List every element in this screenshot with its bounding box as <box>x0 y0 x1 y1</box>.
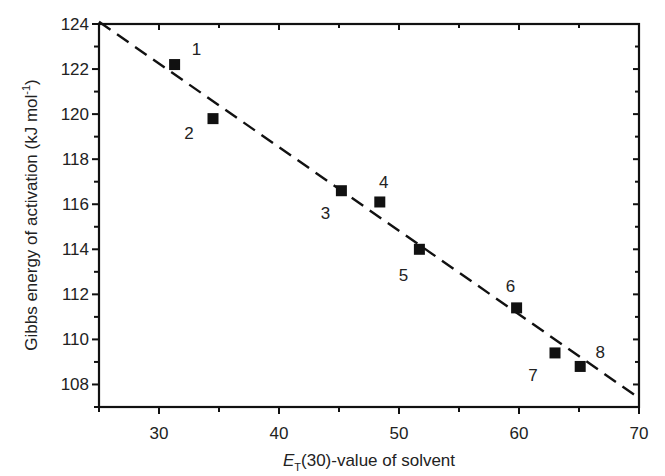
y-tick-label: 120 <box>61 105 89 124</box>
point-label: 6 <box>506 277 515 296</box>
square-marker <box>575 361 586 372</box>
x-tick-label: 50 <box>390 424 409 443</box>
y-tick-label: 112 <box>62 285 89 304</box>
point-label: 8 <box>595 343 604 362</box>
y-tick-label: 122 <box>61 60 89 79</box>
square-marker <box>511 302 522 313</box>
y-tick-label: 114 <box>62 240 89 259</box>
point-label: 4 <box>379 173 388 192</box>
x-axis-label: ET(30)-value of solvent <box>283 451 455 473</box>
square-marker <box>374 196 385 207</box>
y-tick-label: 124 <box>61 15 89 34</box>
square-marker <box>208 113 219 124</box>
point-label: 1 <box>192 40 201 59</box>
x-tick-label: 70 <box>630 424 649 443</box>
scatter-chart: 3040506070108110112114116118120122124 12… <box>0 0 665 476</box>
y-tick-label: 108 <box>61 375 89 394</box>
x-tick-label: 60 <box>510 424 529 443</box>
axis-labels: ET(30)-value of solvent Gibbs energy of … <box>20 79 455 473</box>
point-label: 2 <box>184 124 193 143</box>
point-label: 3 <box>321 204 330 223</box>
plot-axes: 3040506070108110112114116118120122124 <box>61 15 649 443</box>
y-tick-label: 110 <box>62 330 89 349</box>
y-tick-label: 118 <box>62 150 89 169</box>
square-marker <box>336 185 347 196</box>
regression-line <box>99 22 639 398</box>
x-tick-label: 30 <box>150 424 169 443</box>
square-marker <box>414 244 425 255</box>
square-marker <box>169 59 180 70</box>
data-points: 12345678 <box>169 40 605 385</box>
y-tick-label: 116 <box>62 195 89 214</box>
point-label: 7 <box>528 366 537 385</box>
dashed-fit-line <box>99 22 639 398</box>
square-marker <box>550 347 561 358</box>
x-tick-label: 40 <box>270 424 289 443</box>
y-axis-label: Gibbs energy of activation (kJ mol-1) <box>20 79 41 351</box>
point-label: 5 <box>399 266 408 285</box>
